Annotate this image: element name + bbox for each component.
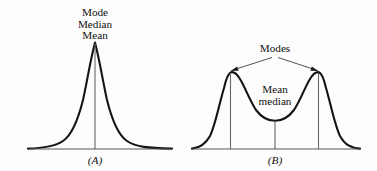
- panel-a-mode-label: Mode: [82, 6, 108, 18]
- panel-a-mean-label: Mean: [82, 29, 108, 41]
- panel-b-modes-label: Modes: [260, 42, 290, 54]
- modes-leader-left: [235, 58, 273, 70]
- panel-b-caption: (B): [268, 154, 283, 167]
- modes-leader-lines: [231, 58, 319, 72]
- panel-a: Mode Median Mean (A): [28, 6, 172, 167]
- panel-a-caption: (A): [88, 154, 103, 167]
- distribution-comparison-figure: Mode Median Mean (A) Modes Mean median (…: [0, 0, 377, 171]
- modes-arrowhead-right-icon: [310, 66, 318, 71]
- panel-b-median-label: median: [259, 95, 292, 107]
- panel-b-mean-label: Mean: [262, 83, 288, 95]
- modes-leader-right: [278, 58, 315, 70]
- panel-b: Modes Mean median (B): [192, 42, 360, 167]
- panel-a-normal-curve: [28, 43, 172, 149]
- modes-arrowhead-left-icon: [231, 66, 239, 71]
- panel-a-median-label: Median: [78, 18, 113, 30]
